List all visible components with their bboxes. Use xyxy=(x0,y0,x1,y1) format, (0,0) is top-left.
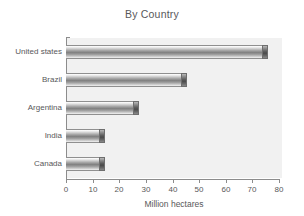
bar-united-states xyxy=(66,45,268,59)
x-tick-label: 80 xyxy=(267,185,291,194)
x-tick-mark xyxy=(173,179,174,183)
bar-end-cap xyxy=(99,129,105,143)
category-label: Brazil xyxy=(0,75,62,85)
x-tick-mark xyxy=(199,179,200,183)
category-label: United states xyxy=(0,47,62,57)
bar-brazil xyxy=(66,73,187,87)
x-axis-title: Million hectares xyxy=(66,199,282,209)
x-tick-label: 50 xyxy=(187,185,211,194)
x-tick-label: 30 xyxy=(134,185,158,194)
x-tick-mark xyxy=(119,179,120,183)
bar-chart: By Country United statesBrazilArgentinaI… xyxy=(0,0,304,216)
bar-end-cap xyxy=(133,101,139,115)
bar-end-cap xyxy=(99,157,105,171)
x-tick-mark xyxy=(66,179,67,183)
category-label: Canada xyxy=(0,159,62,169)
bar-argentina xyxy=(66,101,139,115)
x-tick-mark xyxy=(93,179,94,183)
bar-body xyxy=(66,101,139,115)
bar-canada xyxy=(66,157,105,171)
category-label: Argentina xyxy=(0,103,62,113)
x-tick-label: 40 xyxy=(161,185,185,194)
x-tick-mark xyxy=(279,179,280,183)
x-tick-label: 60 xyxy=(214,185,238,194)
x-tick-label: 0 xyxy=(54,185,78,194)
bar-end-cap xyxy=(262,45,268,59)
y-axis-top-tick xyxy=(66,37,70,38)
bar-body xyxy=(66,45,268,59)
x-tick-label: 10 xyxy=(81,185,105,194)
x-tick-label: 20 xyxy=(107,185,131,194)
bar-india xyxy=(66,129,105,143)
chart-title: By Country xyxy=(0,8,304,20)
x-tick-mark xyxy=(226,179,227,183)
bar-body xyxy=(66,73,187,87)
bar-end-cap xyxy=(181,73,187,87)
x-tick-mark xyxy=(252,179,253,183)
x-tick-mark xyxy=(146,179,147,183)
x-tick-label: 70 xyxy=(240,185,264,194)
category-label: India xyxy=(0,131,62,141)
